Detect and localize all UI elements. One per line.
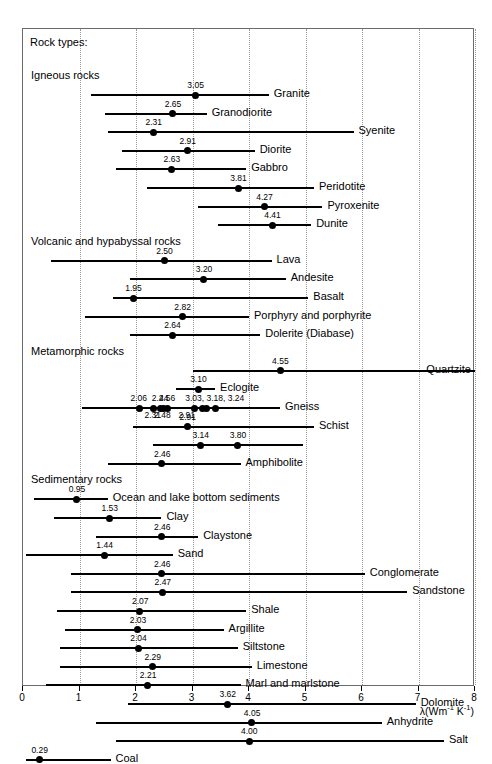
rock-name-label: Gneiss [285, 401, 319, 412]
rock-name-label: Claystone [203, 530, 252, 541]
range-bar [85, 316, 249, 318]
range-bar [116, 740, 444, 742]
x-tick-label-8: 8 [471, 692, 477, 703]
rock-name-label: Siltstone [243, 641, 285, 652]
value-label: 2.64 [164, 321, 181, 330]
value-label: 2.07 [132, 597, 149, 606]
value-marker [269, 222, 276, 229]
value-label: 2.65 [165, 100, 182, 109]
rock-name-label: Syenite [359, 125, 396, 136]
range-bar [133, 426, 314, 428]
x-tick-1 [79, 686, 80, 691]
axis-units-mid: K [454, 705, 464, 717]
value-marker [235, 185, 242, 192]
range-bar [96, 536, 198, 538]
range-bar [91, 94, 269, 96]
value-marker [195, 386, 202, 393]
value-marker [158, 533, 165, 540]
rock-name-label: Basalt [313, 291, 344, 302]
chart-plot-area: Igneous rocksVolcanic and hypabyssal roc… [22, 28, 474, 686]
value-marker [261, 203, 268, 210]
value-label: 4.41 [264, 211, 281, 220]
group-heading: Metamorphic rocks [31, 345, 124, 357]
range-bar [82, 407, 280, 409]
axis-exponent-2: -1 [464, 703, 471, 712]
value-label: 0.29 [31, 746, 48, 755]
rock-name-label: Coal [116, 753, 139, 764]
value-marker [277, 367, 284, 374]
value-marker [159, 589, 166, 596]
axis-units-open: (Wm [425, 705, 447, 717]
range-bar [71, 591, 407, 593]
value-label: 2.06 [130, 394, 147, 403]
rock-name-label: Andesite [291, 272, 334, 283]
value-marker [200, 276, 207, 283]
value-marker [158, 570, 165, 577]
value-marker [246, 738, 253, 745]
value-marker [36, 756, 43, 763]
range-bar [65, 629, 223, 631]
range-bar [218, 224, 311, 226]
value-label: 2.21 [140, 671, 157, 680]
axis-exponent-1: -1 [447, 703, 454, 712]
value-marker [158, 460, 165, 467]
rock-name-label: Schist [319, 420, 349, 431]
group-heading: Igneous rocks [31, 69, 99, 81]
value-label: 1.44 [96, 541, 113, 550]
rock-name-label: Amphibolite [246, 457, 303, 468]
rock-name-label: Porphyry and porphyrite [254, 310, 371, 321]
value-marker [184, 423, 191, 430]
value-marker [179, 313, 186, 320]
x-tick-3 [192, 686, 193, 691]
range-bar [147, 187, 314, 189]
range-bar [34, 498, 107, 500]
value-label: 2.46 [154, 450, 171, 459]
legend-title: Rock types: [30, 36, 87, 48]
rock-name-label: Dunite [316, 218, 348, 229]
rock-name-label: Eclogite [220, 382, 259, 393]
value-label: 2.82 [174, 303, 191, 312]
range-bar [108, 131, 354, 133]
value-marker [168, 166, 175, 173]
rock-name-label: Quartzite [426, 364, 471, 375]
value-label: 4.27 [256, 193, 273, 202]
range-bar [108, 463, 241, 465]
rock-name-label: Lava [277, 254, 301, 265]
rock-name-label: Granite [274, 88, 310, 99]
value-label: 2.91 [179, 413, 196, 422]
value-label: 2.04 [130, 634, 147, 643]
x-tick-label-3: 3 [189, 692, 195, 703]
gridline-8 [475, 29, 476, 685]
rock-name-label: Sandstone [412, 585, 465, 596]
value-marker [150, 129, 157, 136]
value-marker [73, 496, 80, 503]
rock-name-label: Limestone [257, 660, 308, 671]
rock-name-label: Diorite [260, 144, 292, 155]
value-marker [149, 663, 156, 670]
rock-name-label: Pyroxenite [327, 200, 379, 211]
range-bar [105, 113, 207, 115]
value-marker [184, 147, 191, 154]
x-tick-label-5: 5 [302, 692, 308, 703]
group-heading: Volcanic and hypabyssal rocks [31, 235, 181, 247]
value-label: 4.55 [272, 357, 289, 366]
value-label: 3.80 [230, 431, 247, 440]
value-marker [234, 442, 241, 449]
x-tick-label-1: 1 [76, 692, 82, 703]
x-tick-label-7: 7 [415, 692, 421, 703]
rock-name-label: Peridotite [319, 181, 365, 192]
gridline-2 [136, 29, 137, 685]
value-marker [192, 92, 199, 99]
value-marker [130, 295, 137, 302]
gridline-5 [306, 29, 307, 685]
value-label: 0.95 [69, 485, 86, 494]
range-bar [113, 297, 308, 299]
value-marker [136, 405, 143, 412]
value-marker [169, 110, 176, 117]
gridline-1 [80, 29, 81, 685]
x-tick-6 [361, 686, 362, 691]
x-axis-title: λ(Wm-1 K-1) [420, 703, 474, 717]
range-bar [130, 334, 260, 336]
rock-name-label: Ocean and lake bottom sediments [113, 492, 280, 503]
value-label: 2.56 [159, 394, 176, 403]
